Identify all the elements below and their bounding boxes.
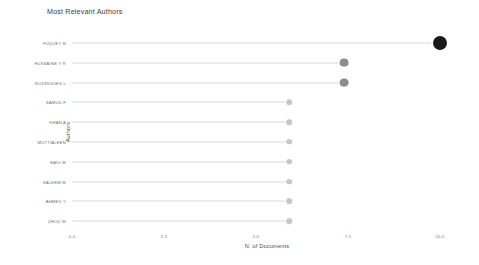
y-tick-label: RODRIGUES L [35, 80, 66, 85]
data-point-marker[interactable] [285, 158, 293, 166]
y-tick-label: SAMUD F [46, 100, 66, 105]
lollipop-stem [72, 122, 289, 123]
lollipop-stem [72, 62, 344, 63]
lollipop-stem [72, 201, 289, 202]
lollipop-stem [72, 141, 289, 142]
x-tick-label: 5.0 [253, 234, 259, 239]
lollipop-stem [72, 102, 289, 103]
x-tick-label: 0.0 [69, 234, 75, 239]
data-point-marker[interactable] [285, 99, 293, 107]
y-tick-label: MUTTIALEEN [38, 139, 66, 144]
x-tick-label: 2.5 [161, 234, 167, 239]
data-point-marker[interactable] [285, 178, 293, 186]
y-axis-label: Authors [65, 72, 71, 192]
y-tick-label: FUQUEY H [43, 40, 66, 45]
most-relevant-authors-chart: Most Relevant Authors Authors FUQUEY HHU… [0, 0, 479, 265]
data-point-marker[interactable] [285, 138, 293, 146]
lollipop-stem [72, 42, 440, 43]
lollipop-stem [72, 161, 289, 162]
data-point-marker[interactable] [285, 198, 293, 206]
y-tick-label: ZHOU W [48, 219, 66, 224]
x-tick-label: 7.5 [345, 234, 351, 239]
chart-title: Most Relevant Authors [47, 7, 122, 16]
y-tick-label: SALEEM M [43, 179, 66, 184]
lollipop-stem [72, 181, 289, 182]
x-axis-label: N. of Documents [72, 243, 462, 249]
data-point-marker[interactable] [339, 57, 350, 68]
x-tick-label: 10.0 [436, 234, 445, 239]
y-tick-label: AHMED Y [46, 199, 66, 204]
x-axis: 0.02.55.07.510.0 N. of Documents [72, 231, 462, 265]
data-point-marker[interactable] [339, 77, 350, 88]
plot-area: Authors FUQUEY HHUSSAINE Y RRODRIGUES LS… [72, 33, 462, 231]
data-point-marker[interactable] [285, 217, 293, 225]
y-tick-label: HUSSAINE Y R [34, 60, 66, 65]
data-point-marker[interactable] [285, 118, 293, 126]
data-point-marker[interactable] [431, 34, 449, 52]
lollipop-stem [72, 82, 344, 83]
y-tick-label: BAIG M [50, 159, 66, 164]
y-tick-label: KHAN A [49, 120, 66, 125]
lollipop-stem [72, 221, 289, 222]
